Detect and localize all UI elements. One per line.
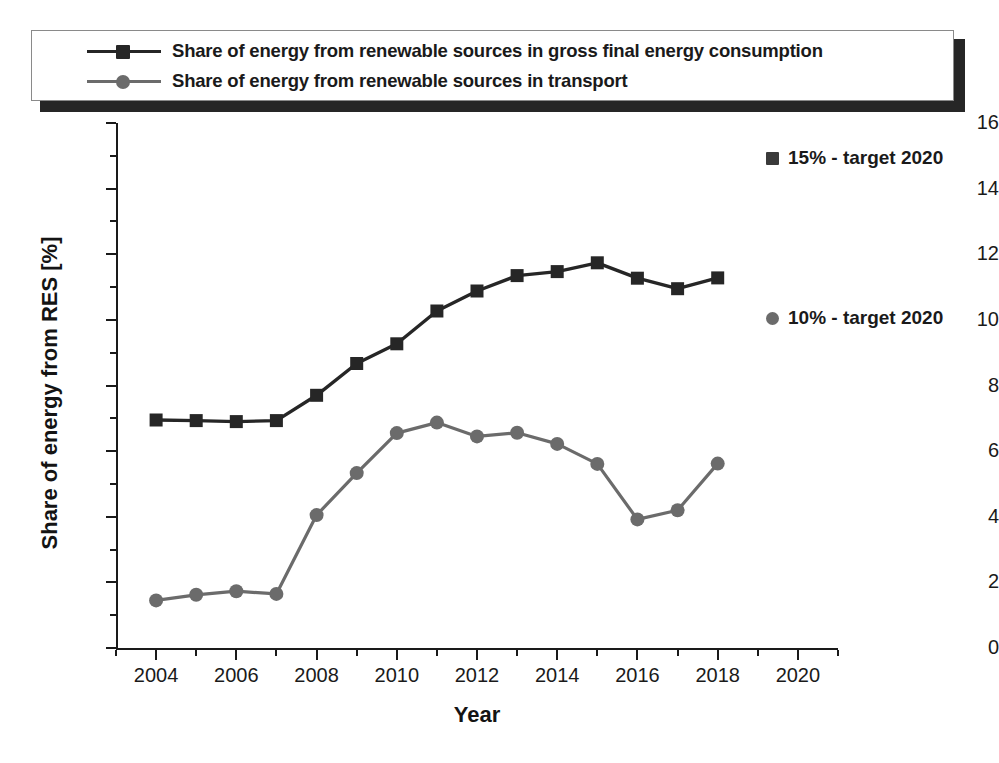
data-point-circle <box>189 588 203 602</box>
data-point-circle <box>671 503 685 517</box>
x-axis-title: Year <box>116 702 838 728</box>
y-tick-major <box>106 516 116 518</box>
x-tick-major <box>396 650 398 660</box>
data-point-circle <box>229 584 243 598</box>
x-tick-minor <box>115 650 117 656</box>
y-tick-major <box>106 122 116 124</box>
y-tick-minor <box>110 483 116 485</box>
x-tick-major <box>316 650 318 660</box>
data-series <box>149 416 725 608</box>
x-tick-major <box>155 650 157 660</box>
data-point-circle <box>630 512 644 526</box>
y-tick-label: 16 <box>901 111 999 134</box>
series-line <box>156 263 718 422</box>
legend-entry-gross-final-consumption: Share of energy from renewable sources i… <box>87 37 823 65</box>
series-line <box>156 423 718 601</box>
x-tick-major <box>797 650 799 660</box>
x-tick-major <box>717 650 719 660</box>
data-point-circle <box>269 587 283 601</box>
y-axis-line <box>116 123 118 650</box>
circle-marker-icon <box>766 312 779 325</box>
x-tick-label: 2012 <box>437 664 517 687</box>
y-tick-label: 8 <box>901 374 999 397</box>
annotation-label: 15% - target 2020 <box>788 147 943 169</box>
data-point-square <box>190 414 203 427</box>
data-point-circle <box>510 426 524 440</box>
data-point-circle <box>711 457 725 471</box>
x-tick-minor <box>596 650 598 656</box>
data-point-square <box>350 357 363 370</box>
y-tick-minor <box>110 155 116 157</box>
x-tick-label: 2018 <box>678 664 758 687</box>
square-marker-icon <box>87 41 161 61</box>
y-tick-minor <box>110 614 116 616</box>
data-point-circle <box>350 466 364 480</box>
x-tick-major <box>556 650 558 660</box>
data-point-square <box>150 414 163 427</box>
square-marker-icon <box>766 152 779 165</box>
x-tick-major <box>636 650 638 660</box>
x-tick-minor <box>757 650 759 656</box>
data-point-square <box>390 337 403 350</box>
data-point-square <box>551 265 564 278</box>
data-point-circle <box>390 426 404 440</box>
y-tick-major <box>106 385 116 387</box>
data-point-square <box>270 414 283 427</box>
x-tick-label: 2004 <box>116 664 196 687</box>
data-point-circle <box>470 429 484 443</box>
x-tick-minor <box>837 650 839 656</box>
x-tick-major <box>235 650 237 660</box>
y-tick-minor <box>110 352 116 354</box>
data-point-square <box>671 282 684 295</box>
y-tick-minor <box>110 286 116 288</box>
x-tick-minor <box>195 650 197 656</box>
y-axis-title: Share of energy from RES [%] <box>37 128 63 658</box>
y-tick-major <box>106 188 116 190</box>
data-point-square <box>230 415 243 428</box>
data-point-square <box>310 389 323 402</box>
data-point-square <box>430 305 443 318</box>
data-point-square <box>511 269 524 282</box>
y-tick-minor <box>110 220 116 222</box>
y-tick-major <box>106 581 116 583</box>
x-tick-minor <box>275 650 277 656</box>
data-series <box>150 256 725 428</box>
y-tick-minor <box>110 417 116 419</box>
data-point-circle <box>149 593 163 607</box>
annotation-target-15: 15% - target 2020 <box>766 147 943 169</box>
x-tick-label: 2014 <box>517 664 597 687</box>
data-point-circle <box>550 437 564 451</box>
x-tick-minor <box>356 650 358 656</box>
y-tick-major <box>106 319 116 321</box>
x-tick-label: 2010 <box>357 664 437 687</box>
y-tick-label: 6 <box>901 439 999 462</box>
chart-legend: Share of energy from renewable sources i… <box>31 30 954 101</box>
data-point-square <box>591 256 604 269</box>
x-tick-major <box>476 650 478 660</box>
y-tick-label: 0 <box>901 636 999 659</box>
x-tick-label: 2008 <box>277 664 357 687</box>
annotation-target-10: 10% - target 2020 <box>766 307 943 329</box>
legend-label: Share of energy from renewable sources i… <box>172 70 628 92</box>
y-tick-label: 12 <box>901 242 999 265</box>
y-tick-label: 4 <box>901 505 999 528</box>
legend-label: Share of energy from renewable sources i… <box>172 40 823 62</box>
y-tick-major <box>106 647 116 649</box>
data-point-circle <box>590 457 604 471</box>
x-tick-minor <box>677 650 679 656</box>
annotation-label: 10% - target 2020 <box>788 307 943 329</box>
data-point-square <box>471 285 484 298</box>
x-tick-label: 2020 <box>758 664 838 687</box>
y-tick-major <box>106 450 116 452</box>
y-tick-label: 2 <box>901 570 999 593</box>
data-point-circle <box>430 416 444 430</box>
circle-marker-icon <box>87 71 161 91</box>
data-point-circle <box>310 508 324 522</box>
x-tick-minor <box>436 650 438 656</box>
data-point-square <box>711 271 724 284</box>
y-tick-label: 14 <box>901 177 999 200</box>
x-tick-label: 2006 <box>196 664 276 687</box>
y-tick-minor <box>110 549 116 551</box>
x-tick-minor <box>516 650 518 656</box>
legend-entry-transport: Share of energy from renewable sources i… <box>87 67 628 95</box>
